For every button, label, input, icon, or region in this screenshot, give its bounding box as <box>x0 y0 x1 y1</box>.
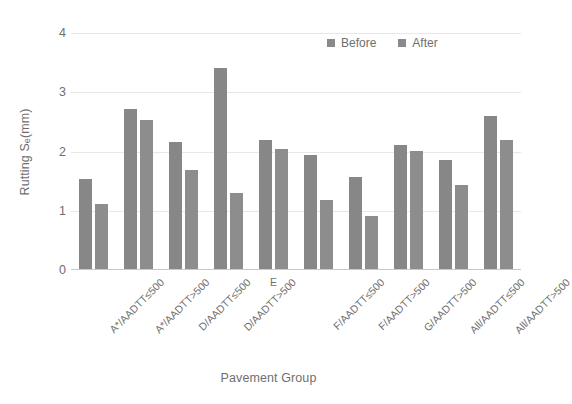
bar-group <box>71 33 116 269</box>
y-tick-label: 2 <box>44 145 66 159</box>
x-label-cell: E <box>251 272 296 367</box>
legend-label: Before <box>341 36 376 50</box>
bar-group <box>341 33 386 269</box>
bar-after[interactable] <box>230 193 243 269</box>
bar-before[interactable] <box>169 142 182 269</box>
x-axis-line <box>71 269 521 270</box>
chart-legend: Before After <box>327 36 438 50</box>
bar-after[interactable] <box>320 200 333 269</box>
y-tick-label: 0 <box>44 263 66 277</box>
x-axis-title: Pavement Group <box>0 371 537 385</box>
y-axis-title-main: Rutting S <box>18 143 32 195</box>
x-label-cell: D/AADTT>500 <box>206 272 251 367</box>
bar-group <box>116 33 161 269</box>
bar-before[interactable] <box>79 179 92 269</box>
x-label-cell: A*/AADTT≤500 <box>71 272 116 367</box>
bar-before[interactable] <box>259 140 272 269</box>
bar-before[interactable] <box>304 155 317 269</box>
x-label-cell: G/AADTT>500 <box>386 272 431 367</box>
bar-group <box>431 33 476 269</box>
y-axis-title-subscript: e <box>22 138 32 143</box>
legend-item-before: Before <box>327 36 376 50</box>
bar-after[interactable] <box>455 185 468 269</box>
legend-swatch-icon <box>398 39 406 47</box>
plot-area <box>71 33 521 270</box>
x-axis-tick-labels: A*/AADTT≤500A*/AADTT>500D/AADTT≤500D/AAD… <box>71 272 521 367</box>
bar-after[interactable] <box>365 216 378 269</box>
bar-group <box>386 33 431 269</box>
x-label-cell: A*/AADTT>500 <box>116 272 161 367</box>
y-axis-title: Rutting Se (mm) <box>14 22 36 282</box>
bar-groups <box>71 33 521 269</box>
bar-after[interactable] <box>275 149 288 269</box>
bar-before[interactable] <box>484 116 497 269</box>
bar-group <box>161 33 206 269</box>
bar-after[interactable] <box>95 204 108 269</box>
bar-after[interactable] <box>410 151 423 269</box>
y-tick-label: 4 <box>44 26 66 40</box>
bar-after[interactable] <box>140 120 153 269</box>
x-label-cell: F/AADTT≤500 <box>296 272 341 367</box>
bar-before[interactable] <box>394 145 407 269</box>
x-label-cell: All/AADTT≤500 <box>431 272 476 367</box>
y-axis-tick-labels: 4 3 2 1 0 <box>44 33 66 270</box>
bar-before[interactable] <box>439 160 452 269</box>
x-label-cell: D/AADTT≤500 <box>161 272 206 367</box>
y-axis-title-units: (mm) <box>18 109 32 139</box>
legend-swatch-icon <box>327 39 335 47</box>
x-label-cell: F/AADTT>500 <box>341 272 386 367</box>
y-tick-label: 1 <box>44 204 66 218</box>
legend-label: After <box>412 36 437 50</box>
bar-group <box>251 33 296 269</box>
x-tick-label: All/AADTT>500 <box>512 276 572 336</box>
bar-group <box>206 33 251 269</box>
legend-item-after: After <box>398 36 437 50</box>
bar-after[interactable] <box>185 170 198 269</box>
bar-before[interactable] <box>214 68 227 269</box>
x-label-cell: All/AADTT>500 <box>476 272 521 367</box>
bar-group <box>476 33 521 269</box>
bar-group <box>296 33 341 269</box>
bar-before[interactable] <box>124 109 137 269</box>
bar-after[interactable] <box>500 140 513 269</box>
y-tick-label: 3 <box>44 85 66 99</box>
x-tick-label: E <box>270 276 277 288</box>
bar-before[interactable] <box>349 177 362 269</box>
